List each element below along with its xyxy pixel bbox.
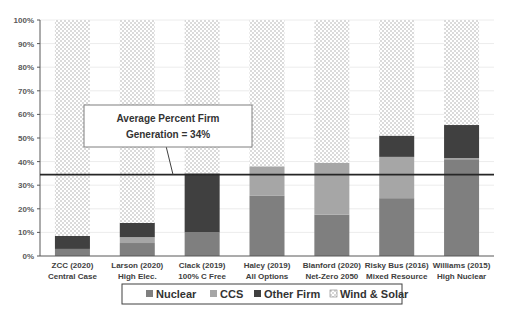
- bar-segment-wind-solar: [314, 20, 349, 163]
- callout-box: [84, 105, 252, 147]
- x-category-label: Williams (2015): [433, 261, 491, 270]
- legend-swatch-icon: [254, 290, 261, 297]
- legend: NuclearCCSOther FirmWind & Solar: [122, 284, 409, 304]
- x-category-label: Blanford (2020): [303, 261, 362, 270]
- bar-segment-wind-solar: [379, 20, 414, 136]
- x-category-label: Haley (2019): [244, 261, 291, 270]
- bar-group: [444, 20, 479, 256]
- bar-segment-nuclear: [250, 196, 285, 256]
- x-category-sublabel: All Options: [246, 272, 289, 281]
- bar-segment-nuclear: [120, 243, 155, 256]
- bar-segment-nuclear: [55, 249, 90, 256]
- y-tick-label: 40%: [18, 158, 34, 167]
- y-axis: 0%10%20%30%40%50%60%70%80%90%100%: [14, 16, 40, 261]
- bar-segment-other-firm: [55, 236, 90, 249]
- bar-group: [379, 20, 414, 256]
- y-tick-label: 30%: [18, 181, 34, 190]
- bar-segment-ccs: [250, 166, 285, 196]
- x-category-label: Larson (2020): [111, 261, 163, 270]
- x-category-sublabel: Net-Zero 2050: [305, 272, 358, 281]
- legend-label: CCS: [220, 288, 243, 300]
- bar-segment-wind-solar: [444, 20, 479, 125]
- x-category-sublabel: High Nuclear: [437, 272, 486, 281]
- legend-swatch-icon: [330, 290, 337, 297]
- legend-label: Other Firm: [264, 288, 320, 300]
- x-category-sublabel: 100% C Free: [178, 272, 226, 281]
- x-axis: ZCC (2020)Central CaseLarson (2020)High …: [40, 256, 494, 281]
- y-tick-label: 80%: [18, 63, 34, 72]
- x-category-label: Clack (2019): [179, 261, 226, 270]
- bar-segment-ccs: [444, 158, 479, 159]
- bar-segment-wind-solar: [185, 20, 220, 173]
- legend-swatch-icon: [146, 290, 153, 297]
- x-category-sublabel: Central Case: [48, 272, 97, 281]
- legend-item: Other Firm: [254, 288, 320, 300]
- bar-segment-ccs: [120, 237, 155, 243]
- callout-text-line1: Average Percent Firm: [116, 113, 219, 124]
- legend-label: Wind & Solar: [340, 288, 409, 300]
- x-category-sublabel: High Elec.: [118, 272, 157, 281]
- bar-segment-other-firm: [120, 223, 155, 237]
- callout-text-line2: Generation = 34%: [126, 129, 210, 140]
- y-tick-label: 90%: [18, 40, 34, 49]
- bar-segment-ccs: [379, 157, 414, 198]
- bar-segment-other-firm: [185, 173, 220, 232]
- y-tick-label: 20%: [18, 205, 34, 214]
- bar-group: [314, 20, 349, 256]
- bar-segment-nuclear: [314, 215, 349, 256]
- callout-leader-line: [166, 146, 173, 175]
- bar-segment-ccs: [314, 163, 349, 215]
- y-tick-label: 70%: [18, 87, 34, 96]
- y-tick-label: 100%: [14, 16, 34, 25]
- bar-segment-other-firm: [379, 136, 414, 157]
- bar-segment-wind-solar: [250, 20, 285, 166]
- bar-group: [250, 20, 285, 256]
- bar-segment-nuclear: [379, 198, 414, 256]
- y-tick-label: 0%: [22, 252, 34, 261]
- stacked-bar-chart: 0%10%20%30%40%50%60%70%80%90%100% ZCC (2…: [0, 0, 506, 314]
- average-annotation-callout: Average Percent FirmGeneration = 34%: [84, 105, 252, 175]
- bar-segment-nuclear: [444, 159, 479, 256]
- legend-item: Wind & Solar: [330, 288, 409, 300]
- bar-segment-other-firm: [444, 125, 479, 158]
- y-tick-label: 60%: [18, 110, 34, 119]
- y-tick-label: 50%: [18, 134, 34, 143]
- y-tick-label: 10%: [18, 228, 34, 237]
- bar-segment-nuclear: [185, 232, 220, 256]
- x-category-label: ZCC (2020): [52, 261, 94, 270]
- x-category-label: Risky Bus (2016): [365, 261, 429, 270]
- legend-swatch-icon: [210, 290, 217, 297]
- legend-label: Nuclear: [156, 288, 197, 300]
- x-category-sublabel: Mixed Resource: [366, 272, 428, 281]
